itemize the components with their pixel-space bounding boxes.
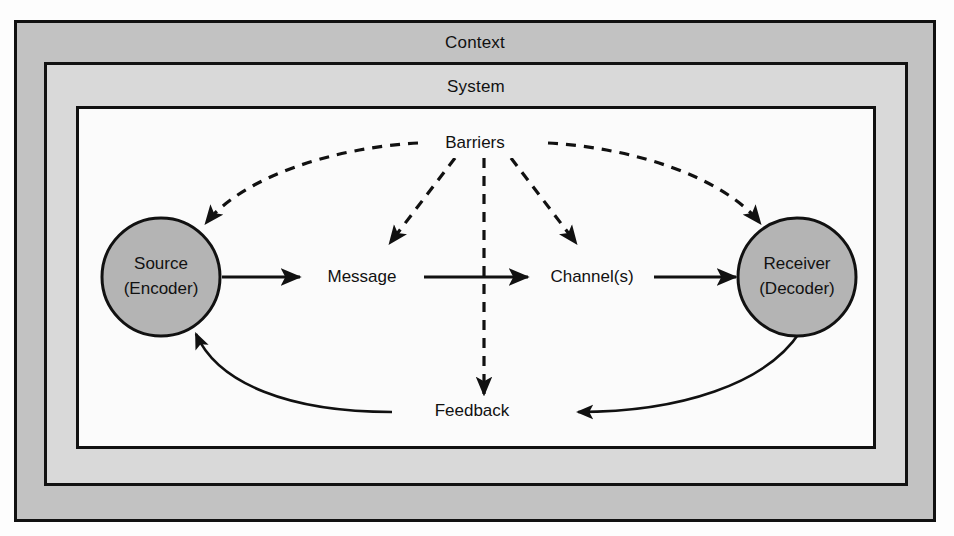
- source-node-shape: [102, 218, 220, 336]
- barriers-node-label: Barriers: [445, 133, 505, 152]
- channel-node-label: Channel(s): [550, 267, 633, 286]
- barriers-to-receiver-arrow: [548, 143, 760, 223]
- receiver-node-shape: [738, 218, 856, 336]
- receiver-node-label-line1: Receiver: [763, 254, 830, 273]
- barriers-to-message-arrow: [390, 158, 455, 243]
- source-node-label-line1: Source: [134, 254, 188, 273]
- receiver-to-feedback-arrow: [578, 332, 800, 412]
- receiver-node-label-line2: (Decoder): [759, 279, 835, 298]
- barriers-to-channel-arrow: [511, 158, 576, 243]
- source-node-label-line2: (Encoder): [124, 279, 199, 298]
- communication-model-diagram: Context System: [0, 0, 954, 536]
- feedback-node-label: Feedback: [435, 401, 510, 420]
- feedback-to-source-arrow: [196, 334, 392, 412]
- barriers-to-source-arrow: [206, 143, 418, 223]
- message-node-label: Message: [328, 267, 397, 286]
- diagram-artwork: Source (Encoder) Receiver (Decoder) Mess…: [0, 0, 954, 536]
